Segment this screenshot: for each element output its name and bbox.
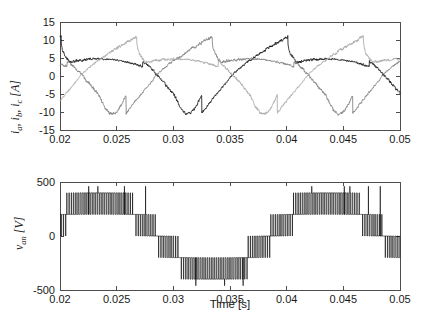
x-tick-label: 0.03 <box>163 293 184 305</box>
currents-traces <box>60 35 400 115</box>
y-tick-label: -15 <box>39 124 55 136</box>
voltage-tick-labels: 0.020.0250.030.0350.040.0450.055000-500 <box>33 176 411 305</box>
x-tick-label: 0.04 <box>276 293 297 305</box>
currents-ylabel-text: ia, ib, ic [A] <box>8 80 24 134</box>
voltage-ylabel: van [V] <box>6 170 32 280</box>
y-tick-label: 500 <box>37 176 55 188</box>
voltage-axes <box>60 182 400 290</box>
currents-plot-svg: 0.020.0250.030.0350.040.0450.05151050-5-… <box>0 0 422 165</box>
x-tick-label: 0.04 <box>276 133 297 145</box>
voltage-traces <box>60 186 400 285</box>
y-tick-label: 15 <box>43 16 55 28</box>
x-tick-label: 0.05 <box>389 293 410 305</box>
x-tick-label: 0.025 <box>103 133 131 145</box>
y-tick-label: -10 <box>39 106 55 118</box>
y-tick-label: 0 <box>49 70 55 82</box>
x-tick-label: 0.045 <box>330 133 358 145</box>
x-tick-label: 0.045 <box>330 293 358 305</box>
x-tick-label: 0.035 <box>216 133 244 145</box>
chart-panel-currents: 0.020.0250.030.0350.040.0450.05151050-5-… <box>0 0 422 165</box>
voltage-ylabel-text: van [V] <box>12 216 28 250</box>
voltage-xlabel: Time [s] <box>210 298 250 310</box>
y-tick-label: -500 <box>33 284 55 296</box>
y-tick-label: -5 <box>45 88 55 100</box>
figure-root: 0.020.0250.030.0350.040.0450.05151050-5-… <box>0 0 422 330</box>
chart-panel-voltage: 0.020.0250.030.0350.040.0450.055000-500 … <box>0 160 422 330</box>
currents-tick-labels: 0.020.0250.030.0350.040.0450.05151050-5-… <box>39 16 411 145</box>
voltage-trace-van <box>60 186 400 285</box>
x-tick-label: 0.025 <box>103 293 131 305</box>
x-tick-label: 0.03 <box>163 133 184 145</box>
current-trace-i-b <box>60 37 400 116</box>
y-tick-label: 0 <box>49 230 55 242</box>
currents-ylabel: ia, ib, ic [A] <box>2 22 28 142</box>
voltage-plot-svg: 0.020.0250.030.0350.040.0450.055000-500 … <box>0 160 422 330</box>
y-tick-label: 5 <box>49 52 55 64</box>
y-tick-label: 10 <box>43 34 55 46</box>
x-tick-label: 0.05 <box>389 133 410 145</box>
